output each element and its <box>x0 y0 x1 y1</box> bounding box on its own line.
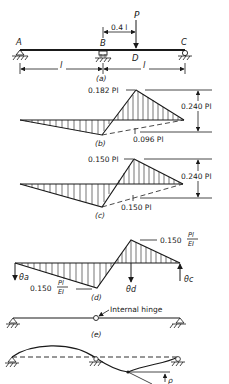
support-f-right <box>171 357 185 366</box>
pin-support-left <box>6 318 20 328</box>
deflected-curve-left <box>12 346 128 372</box>
pin-support-a <box>12 50 28 60</box>
label-peak-d: 0.150 Pl EI <box>160 231 198 248</box>
svg-text:0.150: 0.150 <box>30 284 52 293</box>
label-peak-c: 0.150 Pl <box>88 155 118 164</box>
panel-c-moment-diagram: 0.150 Pl 0.240 Pl 0.150 Pl (c) <box>20 155 226 220</box>
label-dim-c: 0.240 Pl <box>181 172 211 181</box>
label-internal-hinge: Internal hinge <box>110 305 163 314</box>
roller-support-b <box>95 51 111 62</box>
label-bottom-d: 0.150 Pl EI <box>30 279 68 296</box>
panel-f-deflected-shape: ρ <box>5 346 185 384</box>
caption-a: (a) <box>96 74 107 83</box>
svg-text:Pl: Pl <box>58 279 64 287</box>
caption-e: (e) <box>91 330 102 339</box>
label-theta-c: θc <box>184 275 194 284</box>
panel-d-curvature-diagram: θa θd θc 0.150 Pl EI 0.150 Pl EI (d) <box>15 231 198 302</box>
hinge-icon <box>94 316 99 321</box>
deflected-curve-right <box>128 357 178 372</box>
label-theta-a: θa <box>19 273 29 282</box>
caption-b: (b) <box>95 139 106 148</box>
label-a: A <box>15 37 22 47</box>
label-rho: ρ <box>168 376 173 384</box>
caption-c: (c) <box>95 211 105 220</box>
panel-e-hinged-beam: Internal hinge (e) <box>6 305 186 339</box>
label-dim-b: 0.240 Pl <box>181 102 211 111</box>
moment-curve <box>20 90 184 135</box>
label-theta-d: θd <box>126 285 137 294</box>
label-peak-b: 0.182 Pl <box>88 86 118 95</box>
roller-support-c <box>178 50 192 60</box>
label-mid-b: 0.096 Pl <box>133 135 163 144</box>
label-b: B <box>100 38 106 48</box>
svg-text:EI: EI <box>58 288 64 296</box>
svg-text:0.150: 0.150 <box>160 236 182 245</box>
caption-d: (d) <box>91 293 102 302</box>
svg-text:EI: EI <box>188 240 194 248</box>
support-f-left <box>5 357 19 367</box>
panel-a-beam: P 0.4 l A B D C l l (a) <box>12 10 192 83</box>
label-d: D <box>132 53 139 63</box>
continuous-beam-diagram: P 0.4 l A B D C l l (a) <box>0 0 229 384</box>
svg-text:Pl: Pl <box>188 231 194 239</box>
label-mid-c: 0.150 Pl <box>121 203 151 212</box>
moment-curve <box>20 159 183 207</box>
pin-support-right <box>170 318 186 328</box>
label-c: C <box>181 37 187 47</box>
label-offset: 0.4 l <box>111 23 127 32</box>
hinge-pointer-icon <box>99 310 109 316</box>
tangent-line <box>128 372 152 384</box>
panel-b-moment-diagram: 0.182 Pl 0.240 Pl 0.096 Pl (b) <box>20 86 226 148</box>
dashed-closing-line <box>102 120 184 135</box>
label-p: P <box>134 10 140 20</box>
